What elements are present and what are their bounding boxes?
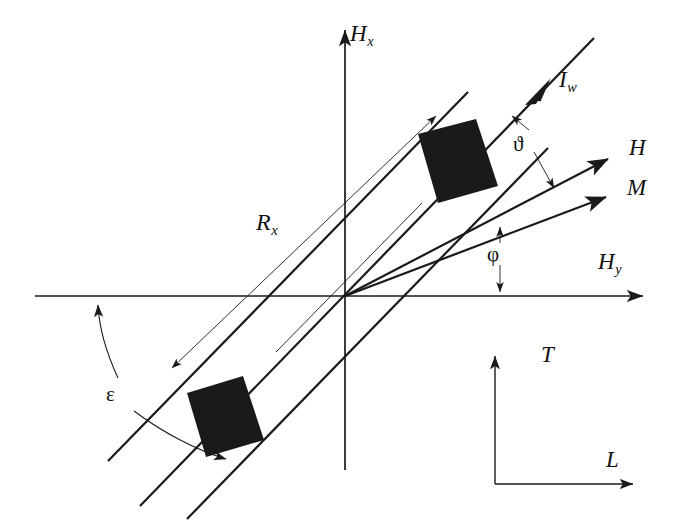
label-h-vector: H [629, 136, 646, 159]
figure-canvas: Hx Hy Iw H M Rx ϑ φ ε T L [0, 0, 674, 531]
label-phi-angle: φ [487, 244, 499, 265]
label-m-vector: M [627, 176, 646, 199]
label-iw: Iw [559, 68, 577, 94]
label-l-axis: L [606, 448, 619, 471]
upper-block [418, 119, 498, 203]
label-rx: Rx [256, 210, 278, 238]
label-hy: Hy [598, 250, 621, 276]
vector-m [345, 197, 606, 296]
label-hx: Hx [350, 22, 373, 48]
label-t-axis: T [541, 343, 554, 366]
label-theta-angle: ϑ [513, 134, 523, 155]
label-epsilon-angle: ε [106, 384, 115, 405]
